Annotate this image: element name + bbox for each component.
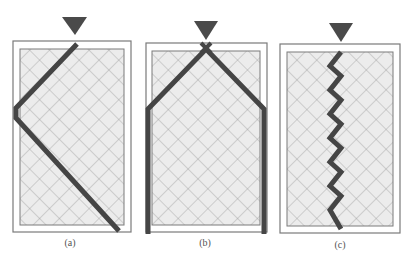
- panel-b: [146, 21, 267, 234]
- load-triangle-icon: [62, 17, 87, 35]
- crack-pattern-diagram: [0, 0, 414, 265]
- load-triangle-icon: [194, 21, 218, 40]
- panel-c: [280, 23, 400, 233]
- load-triangle-icon: [329, 23, 353, 42]
- panel-label-c: (c): [334, 239, 345, 250]
- panel-a: [13, 17, 131, 232]
- panel-label-b: (b): [199, 237, 211, 248]
- crosshatched-region: [152, 51, 260, 225]
- panel-label-a: (a): [64, 237, 75, 248]
